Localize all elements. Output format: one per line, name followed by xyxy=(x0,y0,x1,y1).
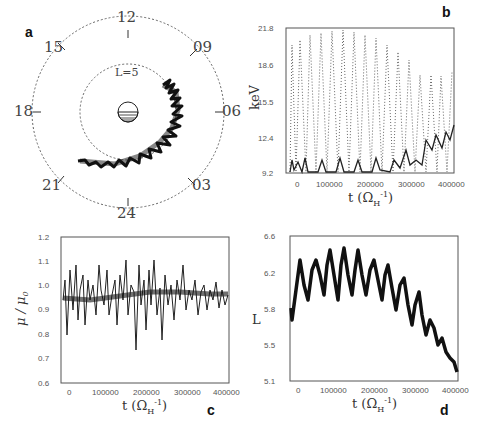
dial-label-21: 21 xyxy=(42,176,61,194)
dial-label-12: 12 xyxy=(117,8,136,26)
d-xtick-2: 200000 xyxy=(361,386,388,395)
dial-label-18: 18 xyxy=(14,102,33,120)
b-xtick-0: 0 xyxy=(295,180,299,189)
panel-d: d 6.6 6.2 5.8 5.5 5.1 0 100000 200000 30… xyxy=(240,220,481,424)
c-xtick-3: 300000 xyxy=(174,388,201,397)
c-ytick-6: 0.6 xyxy=(38,379,49,388)
panel-b: b 21.8 18.6 15.5 12.4 9.2 0 100000 20000… xyxy=(250,0,481,220)
d-ytick-3: 5.5 xyxy=(264,341,275,350)
dial-label-06: 06 xyxy=(222,102,241,120)
b-ytick-1: 18.6 xyxy=(258,61,274,70)
c-xtick-2: 200000 xyxy=(133,388,160,397)
d-ytick-0: 6.6 xyxy=(264,232,275,241)
b-xtick-2: 200000 xyxy=(357,180,384,189)
c-ytick-2: 1.0 xyxy=(38,281,49,290)
d-xtick-3: 300000 xyxy=(402,386,429,395)
dial-label-03: 03 xyxy=(192,176,211,194)
b-xtick-1: 100000 xyxy=(316,180,343,189)
c-ytick-1: 1.1 xyxy=(38,257,49,266)
c-ylabel: μ / μ0 xyxy=(13,291,31,326)
d-ytick-4: 5.1 xyxy=(264,377,275,386)
inner-circle-label: L=5 xyxy=(115,66,139,79)
panel-c: c 1.2 1.1 1.0 0.9 0.8 0.7 0.6 0 100000 2… xyxy=(0,220,250,424)
c-xtick-1: 100000 xyxy=(92,388,119,397)
d-ylabel: L xyxy=(252,312,261,327)
b-xlabel: t (ΩH-1) xyxy=(348,190,393,208)
b-xtick-4: 400000 xyxy=(438,180,465,189)
d-xtick-1: 100000 xyxy=(320,386,347,395)
b-xtick-3: 300000 xyxy=(398,180,425,189)
c-ytick-4: 0.8 xyxy=(38,330,49,339)
c-ytick-3: 0.9 xyxy=(38,305,49,314)
b-ylabel: keV xyxy=(247,85,262,110)
d-ytick-2: 5.8 xyxy=(264,305,275,314)
d-xlabel: t (ΩH-1) xyxy=(352,396,397,414)
b-ytick-3: 12.4 xyxy=(258,134,274,143)
c-xlabel: t (ΩH-1) xyxy=(122,398,167,416)
b-ytick-4: 9.2 xyxy=(262,169,273,178)
d-ytick-1: 6.2 xyxy=(264,269,275,278)
dial-label-09: 09 xyxy=(193,38,212,56)
d-xtick-0: 0 xyxy=(296,386,300,395)
d-xtick-4: 400000 xyxy=(442,386,469,395)
c-xtick-0: 0 xyxy=(67,388,71,397)
c-ytick-0: 1.2 xyxy=(38,233,49,242)
panel-a: a 12 09 06 03 24 21 18 15 L=5 xyxy=(0,0,250,220)
dial-label-15: 15 xyxy=(44,38,63,56)
b-ytick-0: 21.8 xyxy=(258,24,274,33)
c-xtick-4: 400000 xyxy=(213,388,240,397)
c-ytick-5: 0.7 xyxy=(38,354,49,363)
dial-plot xyxy=(0,0,250,220)
